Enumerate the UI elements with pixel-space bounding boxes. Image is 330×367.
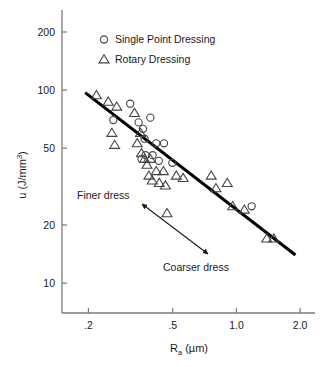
x-tick-label: 1.0 <box>229 319 244 331</box>
trend-line <box>85 93 295 255</box>
svg-text:u (J/mm3): u (J/mm3) <box>15 151 28 199</box>
x-tick-label: .5 <box>168 319 177 331</box>
data-point-triangle <box>110 140 120 148</box>
data-point-circle <box>110 116 117 123</box>
axis-tick-labels: 102050100200.2.51.02.0 <box>37 26 307 331</box>
y-axis-title: u (J/mm3) <box>15 151 28 199</box>
data-point-triangle <box>99 55 109 63</box>
annotation-coarser-dress: Coarser dress <box>163 261 229 273</box>
plot-annotations: Finer dressCoarser dress <box>77 189 229 273</box>
svg-text:Ra (µm): Ra (µm) <box>170 342 208 357</box>
data-point-circle <box>160 140 167 147</box>
y-tick-label: 10 <box>43 277 55 289</box>
dress-direction-arrow <box>142 204 208 254</box>
data-point-circle <box>248 203 255 210</box>
chart-figure: 102050100200.2.51.02.0 Single Point Dres… <box>0 0 330 367</box>
data-point-circle <box>135 119 142 126</box>
data-point-circle <box>127 100 134 107</box>
data-point-circle <box>147 114 154 121</box>
scatter-plot: 102050100200.2.51.02.0 Single Point Dres… <box>0 0 330 367</box>
y-tick-label: 50 <box>43 142 55 154</box>
data-point-triangle <box>162 209 172 217</box>
x-axis-title: Ra (µm) <box>170 342 208 357</box>
plot-legend: Single Point DressingRotary Dressing <box>99 33 216 65</box>
y-tick-label: 20 <box>43 219 55 231</box>
y-tick-label: 100 <box>37 84 55 96</box>
data-point-triangle <box>222 178 232 186</box>
x-tick-label: 2.0 <box>293 319 308 331</box>
legend-label: Rotary Dressing <box>115 53 190 65</box>
data-point-circle <box>155 157 162 164</box>
y-tick-label: 200 <box>37 26 55 38</box>
regression-line <box>85 93 295 255</box>
data-point-triangle <box>107 128 117 136</box>
legend-label: Single Point Dressing <box>115 33 216 45</box>
data-point-circle <box>100 36 107 43</box>
data-point-triangle <box>130 108 140 116</box>
data-point-triangle <box>206 171 216 179</box>
annotation-finer-dress: Finer dress <box>77 189 130 201</box>
data-point-triangle <box>112 102 122 110</box>
data-point-triangle <box>103 97 113 105</box>
x-tick-label: .2 <box>84 319 93 331</box>
